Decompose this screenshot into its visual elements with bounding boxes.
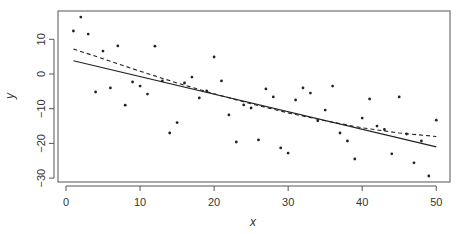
x-axis: 01020304050	[63, 186, 442, 208]
data-point	[302, 87, 305, 90]
data-point	[94, 91, 97, 94]
data-point	[116, 45, 119, 48]
data-point	[287, 152, 290, 155]
data-point	[102, 50, 105, 53]
linear-fit-line	[73, 61, 436, 147]
data-point	[331, 85, 334, 88]
fit-lines	[73, 49, 436, 147]
data-point	[146, 93, 149, 96]
y-tick-label: 10	[35, 33, 47, 45]
data-point	[376, 125, 379, 128]
data-point	[413, 161, 416, 164]
data-point	[279, 147, 282, 150]
data-points	[72, 16, 438, 178]
plot-frame	[58, 11, 450, 182]
y-tick-label: 0	[35, 71, 47, 77]
data-point	[398, 96, 401, 99]
data-point	[242, 104, 245, 107]
data-point	[154, 45, 157, 48]
data-point	[72, 30, 75, 33]
data-point	[198, 97, 201, 100]
data-point	[131, 81, 134, 84]
data-point	[272, 96, 275, 99]
data-point	[353, 158, 356, 161]
y-tick-label: −30	[35, 169, 47, 188]
data-point	[368, 98, 371, 101]
x-tick-label: 10	[134, 196, 146, 208]
x-tick-label: 40	[356, 196, 368, 208]
data-point	[250, 107, 253, 110]
x-tick-label: 0	[63, 196, 69, 208]
data-point	[109, 87, 112, 90]
y-tick-label: −10	[35, 99, 47, 118]
data-point	[427, 175, 430, 178]
data-point	[324, 109, 327, 112]
data-point	[390, 152, 393, 155]
data-point	[168, 132, 171, 135]
x-tick-label: 50	[430, 196, 442, 208]
data-point	[361, 117, 364, 120]
data-point	[213, 56, 216, 59]
data-point	[316, 119, 319, 122]
quadratic-fit-line	[73, 49, 436, 137]
data-point	[191, 76, 194, 79]
x-tick-label: 20	[208, 196, 220, 208]
data-point	[339, 132, 342, 135]
data-point	[87, 33, 90, 36]
x-tick-label: 30	[282, 196, 294, 208]
data-point	[294, 99, 297, 102]
data-point	[405, 133, 408, 136]
data-point	[346, 140, 349, 143]
data-point	[265, 88, 268, 91]
data-point	[124, 104, 127, 107]
x-axis-label: x	[249, 215, 257, 229]
data-point	[139, 85, 142, 88]
data-point	[420, 140, 423, 143]
y-axis: −30−20−10010	[35, 33, 54, 187]
data-point	[205, 90, 208, 93]
scatter-chart: 01020304050 −30−20−10010 x y	[0, 0, 467, 234]
y-tick-label: −20	[35, 134, 47, 153]
data-point	[235, 141, 238, 144]
data-point	[257, 139, 260, 142]
data-point	[383, 128, 386, 131]
data-point	[176, 121, 179, 124]
y-axis-label: y	[3, 92, 17, 100]
data-point	[435, 119, 438, 122]
data-point	[220, 80, 223, 83]
data-point	[309, 92, 312, 95]
data-point	[161, 80, 164, 83]
data-point	[228, 114, 231, 117]
data-point	[183, 82, 186, 85]
data-point	[79, 16, 82, 19]
